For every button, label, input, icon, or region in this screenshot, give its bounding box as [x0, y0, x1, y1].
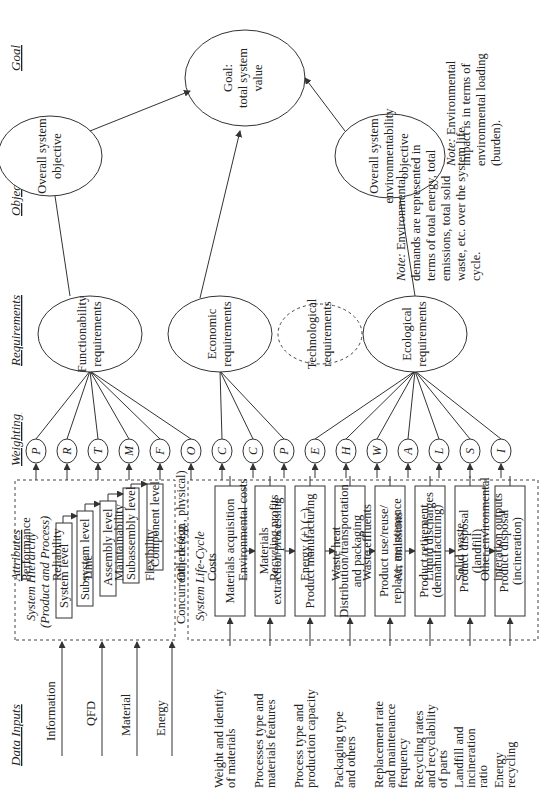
svg-text:production capacity: production capacity — [304, 688, 318, 788]
data-input-information: Information — [44, 681, 58, 741]
header-requirements: Requirements — [8, 295, 23, 367]
svg-text:ratio: ratio — [476, 765, 490, 788]
data-inputs: Information QFD Material Energy — [44, 642, 172, 756]
svg-text:R: R — [60, 447, 74, 456]
svg-text:Costs: Costs — [205, 553, 219, 581]
svg-text:P: P — [29, 447, 43, 456]
svg-text:Overall system: Overall system — [367, 118, 381, 194]
svg-text:Functionability: Functionability — [75, 295, 89, 372]
svg-text:Product use/reuse/: Product use/reuse/ — [377, 504, 391, 597]
svg-text:Liquid discharges: Liquid discharges — [422, 492, 436, 581]
svg-text:(incineration): (incineration) — [510, 517, 524, 585]
svg-text:C: C — [215, 446, 229, 455]
svg-text:of parts: of parts — [436, 750, 450, 788]
svg-text:environmental loading: environmental loading — [474, 52, 488, 166]
svg-text:impact is in terms of: impact is in terms of — [459, 62, 473, 166]
svg-text:terms of total energy, total: terms of total energy, total — [424, 149, 438, 281]
svg-text:M: M — [122, 445, 136, 457]
svg-text:Overall system: Overall system — [35, 118, 49, 194]
svg-text:Technological: Technological — [305, 298, 319, 369]
svg-text:Waste effluents: Waste effluents — [360, 504, 374, 581]
svg-text:Energy (+) (−): Energy (+) (−) — [298, 508, 312, 581]
svg-text:Maintainability: Maintainability — [112, 503, 126, 581]
svg-text:Solid waste: Solid waste — [453, 523, 467, 581]
svg-text:Ecological: Ecological — [400, 307, 414, 361]
svg-text:demands are represented in: demands are represented in — [409, 144, 423, 281]
svg-text:interation outputs: interation outputs — [491, 493, 505, 581]
svg-text:Recycling profits: Recycling profits — [267, 494, 281, 581]
diagram-canvas: Data Inputs Attributes Weighting Require… — [0, 0, 542, 796]
svg-text:L: L — [432, 447, 446, 455]
svg-text:Time: Time — [81, 555, 95, 581]
svg-text:requirements: requirements — [220, 301, 234, 366]
svg-text:objective: objective — [50, 133, 64, 179]
svg-text:requirements: requirements — [415, 301, 429, 366]
svg-text:T: T — [91, 446, 105, 454]
svg-text:Waste heat: Waste heat — [329, 526, 343, 581]
header-goal: Goal — [8, 45, 23, 71]
svg-text:F: F — [153, 447, 167, 456]
life-cycle-inputs: Weight and identifyof materialsProcesses… — [212, 618, 518, 788]
svg-text:Note: Environmental: Note: Environmental — [394, 175, 408, 282]
svg-text:emissions, total solid: emissions, total solid — [439, 175, 453, 281]
data-input-energy: Energy — [154, 699, 168, 736]
header-weighting: Weighting — [8, 413, 23, 466]
svg-text:value: value — [251, 64, 265, 92]
svg-text:Materials acquisition: Materials acquisition — [223, 498, 237, 604]
svg-text:requirements: requirements — [320, 301, 334, 366]
svg-text:requirements: requirements — [90, 301, 104, 366]
svg-text:(burden).: (burden). — [489, 120, 503, 166]
svg-text:of materials: of materials — [224, 729, 238, 788]
svg-text:Goal:: Goal: — [221, 64, 235, 92]
svg-text:A: A — [401, 447, 415, 456]
header-data-inputs: Data Inputs — [8, 704, 23, 767]
svg-text:Others (e.g., physical): Others (e.g., physical) — [174, 470, 188, 581]
svg-text:and others: and others — [344, 736, 358, 788]
svg-text:Reliability: Reliability — [50, 527, 64, 581]
svg-text:Economic: Economic — [205, 308, 219, 359]
svg-text:Note: Environmental: Note: Environmental — [444, 60, 458, 167]
svg-text:Air emissions: Air emissions — [391, 512, 405, 581]
svg-text:C: C — [246, 446, 260, 455]
svg-text:H: H — [339, 445, 353, 456]
svg-text:S: S — [463, 448, 477, 454]
svg-text:O: O — [184, 446, 198, 455]
svg-text:W: W — [370, 445, 384, 456]
level-subassembly: Subassembly level — [124, 486, 138, 580]
svg-text:Other environmental: Other environmental — [478, 477, 492, 581]
svg-text:total system: total system — [236, 48, 250, 108]
svg-text:E: E — [308, 447, 322, 456]
svg-text:recycling: recycling — [504, 741, 518, 788]
svg-text:P: P — [277, 447, 291, 456]
svg-text:Performance: Performance — [19, 517, 33, 581]
svg-text:Environmental costs: Environmental costs — [236, 478, 250, 581]
data-input-qfd: QFD — [84, 701, 98, 726]
svg-text:cycle.: cycle. — [469, 252, 483, 282]
svg-text:Flexibility: Flexibility — [143, 528, 157, 581]
svg-text:frequency: frequency — [396, 737, 410, 788]
svg-text:materials features: materials features — [264, 699, 278, 788]
note-impact: Note: Environmental impact is in terms o… — [444, 52, 503, 167]
data-input-material: Material — [119, 693, 133, 736]
system-value-diagram: Data Inputs Attributes Weighting Require… — [0, 0, 542, 796]
